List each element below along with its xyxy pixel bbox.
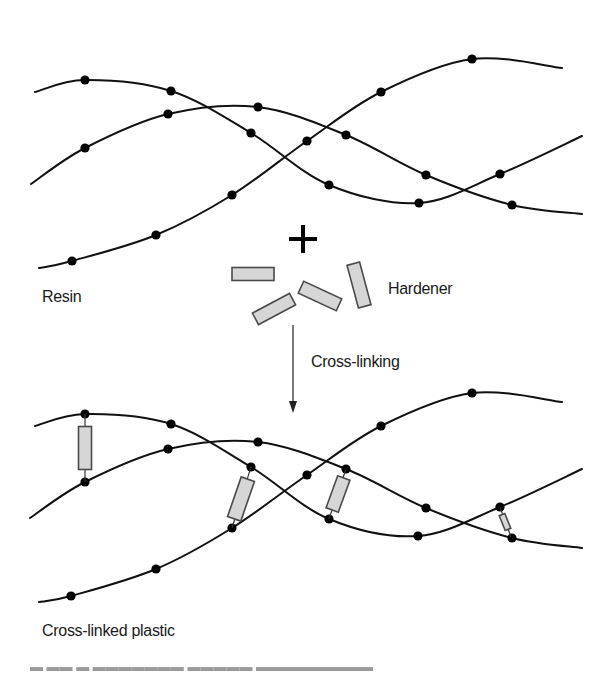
monomer-dot (253, 437, 262, 446)
monomer-dot (413, 531, 422, 540)
monomer-dot (67, 256, 76, 265)
cross-link-molecule (79, 427, 92, 470)
monomer-dot (414, 198, 423, 207)
figure-caption-clipped: ▬ ▬▬ ▬ ▬▬▬▬▬▬▬ ▬▬▬▬▬ ▬▬▬▬▬▬▬▬▬ (30, 659, 373, 674)
monomer-dot (227, 190, 236, 199)
polymer-chain-b (31, 106, 582, 214)
hardener-molecule (298, 281, 342, 311)
cross-linking-label: Cross-linking (311, 353, 400, 370)
hardener-molecule (252, 293, 295, 324)
hardener-molecule (347, 262, 371, 308)
monomer-dot (163, 109, 172, 118)
monomer-dot (253, 102, 262, 111)
cross-linked-chains (30, 388, 582, 602)
hardener-label: Hardener (388, 280, 453, 297)
polymer-chain-c (39, 392, 562, 602)
monomer-dot (302, 136, 311, 145)
monomer-dot (302, 470, 311, 479)
hardener-molecules (232, 262, 371, 325)
monomer-dot (151, 564, 160, 573)
monomer-dot (341, 130, 350, 139)
monomer-dot (66, 591, 75, 600)
polymer-chain-b (30, 441, 582, 548)
monomer-dot (467, 388, 476, 397)
monomer-dot (246, 128, 255, 137)
monomer-dot (467, 54, 476, 63)
resin-chains (31, 54, 582, 268)
cross-link-molecule (326, 476, 350, 512)
polymer-chain-c (39, 58, 562, 268)
hardener-molecule (232, 268, 274, 281)
monomer-dot (507, 200, 516, 209)
monomer-dot (376, 421, 385, 430)
cross-link-molecule (499, 513, 511, 530)
monomer-dot (507, 533, 516, 542)
plus-icon (289, 225, 317, 253)
monomer-dot (324, 180, 333, 189)
monomer-dot (80, 75, 89, 84)
cross-link-bonds (79, 414, 512, 537)
monomer-dot (166, 86, 175, 95)
monomer-dot (495, 169, 504, 178)
cross-linked-plastic-label: Cross-linked plastic (42, 622, 175, 639)
monomer-dot (166, 419, 175, 428)
monomer-dot (151, 230, 160, 239)
monomer-dot (80, 143, 89, 152)
monomer-dot (421, 170, 430, 179)
monomer-dot (421, 503, 430, 512)
resin-label: Resin (42, 288, 81, 305)
monomer-dot (376, 87, 385, 96)
monomer-dot (163, 444, 172, 453)
down-arrow-icon (289, 325, 297, 413)
